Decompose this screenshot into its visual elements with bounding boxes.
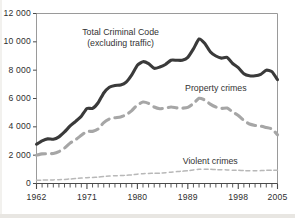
- series-line-violent: [37, 169, 278, 180]
- y-tick-label-8000: 8 000: [8, 65, 31, 75]
- annotation-violent-line1: Violent crimes: [183, 156, 238, 166]
- x-tick-label-1962: 1962: [17, 192, 57, 202]
- y-tick-label-10000: 10 000: [4, 36, 32, 46]
- y-tick-label-4000: 4 000: [8, 121, 31, 131]
- x-tick-label-1998: 1998: [218, 192, 258, 202]
- annotation-property-line1: Property crimes: [185, 83, 247, 93]
- annotation-total-criminal-code: Total Criminal Code (excluding traffic): [76, 27, 166, 48]
- y-axis-ticks: [33, 14, 37, 184]
- annotation-total-line1: Total Criminal Code: [82, 27, 159, 37]
- y-tick-label-0: 0: [26, 178, 31, 188]
- annotation-property-crimes: Property crimes: [171, 83, 261, 94]
- x-tick-label-1989: 1989: [168, 192, 208, 202]
- annotation-total-line2: (excluding traffic): [87, 38, 154, 48]
- x-tick-label-1980: 1980: [117, 192, 157, 202]
- y-tick-label-12000: 12 000: [4, 8, 32, 18]
- x-tick-label-2005: 2005: [258, 192, 296, 202]
- y-tick-label-2000: 2 000: [8, 150, 31, 160]
- x-axis-ticks: [37, 184, 278, 190]
- annotation-violent-crimes: Violent crimes: [165, 156, 255, 167]
- x-tick-label-1971: 1971: [67, 192, 107, 202]
- series-line-property: [37, 98, 278, 155]
- y-tick-label-6000: 6 000: [8, 93, 31, 103]
- crime-rate-line-chart: 02 0004 0006 0008 00010 00012 000 196219…: [0, 0, 295, 218]
